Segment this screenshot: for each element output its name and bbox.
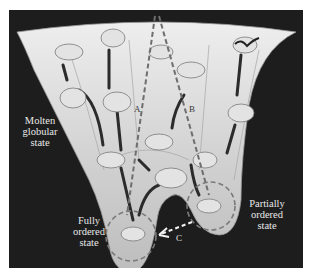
label-line: state: [239, 220, 295, 231]
pathway-c-label: C: [176, 233, 182, 243]
partially-ordered-label: Partially ordered state: [239, 198, 295, 231]
label-line: state: [15, 137, 65, 148]
label-line: ordered: [65, 226, 113, 237]
label-line: globular: [15, 126, 65, 137]
label-line: ordered: [239, 209, 295, 220]
label-line: Fully: [65, 215, 113, 226]
label-line: Partially: [239, 198, 295, 209]
fully-ordered-label: Fully ordered state: [65, 215, 113, 248]
pathway-b-label: B: [189, 104, 195, 114]
molten-globular-label: Molten globular state: [15, 115, 65, 148]
label-line: Molten: [15, 115, 65, 126]
pathway-a-label: A: [134, 104, 141, 114]
label-line: state: [65, 237, 113, 248]
figure-panel: Molten globular state Fully ordered stat…: [9, 10, 303, 268]
